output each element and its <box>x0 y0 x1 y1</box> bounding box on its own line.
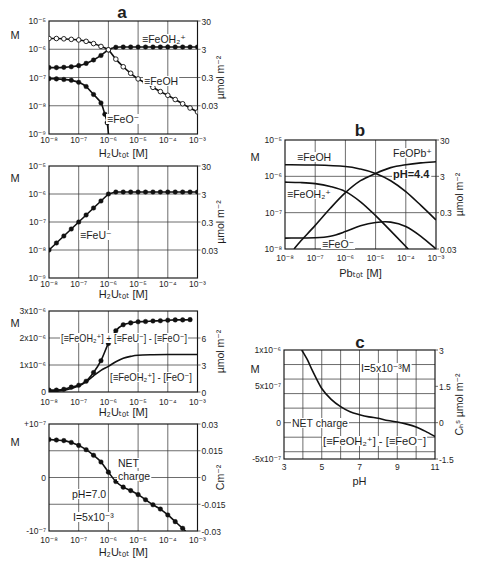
x-axis-title: H₂Uₜₒₜ [M] <box>99 288 148 300</box>
y-tick-label-right: 30 <box>440 136 450 146</box>
y-tick-label-right: 0 <box>202 473 207 483</box>
x-tick-label: 10⁻⁶ <box>100 535 117 545</box>
annotations: ≡FeOHFeOPb⁺pH=4.4≡FeOH₂⁺≡FeO⁻ <box>286 147 433 250</box>
data-point-open <box>114 57 119 62</box>
data-point-filled <box>158 507 163 512</box>
y-axis-title: M <box>10 436 19 448</box>
annotation-label: NET charge <box>292 417 348 429</box>
y-tick-label-right: -0.03 <box>202 527 222 537</box>
panel-title: b <box>355 121 365 140</box>
data-point-filled <box>114 190 119 195</box>
annotation-label: ≡FeO⁻ <box>322 238 354 250</box>
y-tick-label: 10⁻⁹ <box>28 129 46 139</box>
x-tick-label: 9 <box>395 462 400 472</box>
data-point-open <box>84 39 89 44</box>
y-tick-label-right: 0.03 <box>202 420 219 430</box>
y-tick-label-right: -1.5 <box>439 455 454 465</box>
data-point-open <box>121 64 126 69</box>
x-tick-label: 10⁻³ <box>189 397 206 407</box>
data-point-filled <box>91 206 96 211</box>
panel-title: c <box>355 333 364 352</box>
x-tick-label: 10⁻⁷ <box>70 279 87 289</box>
y-tick-label-right: 0.3 <box>202 73 214 83</box>
annotation-label: pH=4.4 <box>393 168 430 180</box>
panel-c: 357911-5x10⁻⁷05x10⁻⁷1x10⁻⁶-1.501.53pHMCₕ… <box>250 333 465 487</box>
data-point-filled <box>91 58 96 63</box>
x-tick-label: 3 <box>282 462 287 472</box>
annotation-label: [≡FeOH₂⁺] - [FeO⁻] <box>110 371 192 383</box>
data-point-open <box>54 36 59 41</box>
data-point-filled <box>76 220 81 225</box>
x-tick-label: 10⁻⁵ <box>367 253 384 263</box>
data-point-filled <box>143 497 148 502</box>
data-point-open <box>173 97 178 102</box>
y-tick-label-right: 0.3 <box>202 218 214 228</box>
data-point-filled <box>151 319 156 324</box>
y-tick-label-right: 0 <box>439 418 444 428</box>
data-point-filled <box>121 485 126 490</box>
y-tick-label-right: 3 <box>202 45 207 55</box>
x-tick-label: 10⁻⁴ <box>159 279 177 289</box>
x-axis-title: Pbₜₒₜ [M] <box>339 267 381 279</box>
data-point-filled <box>84 61 89 66</box>
y-axis-title: M <box>250 151 259 163</box>
data-point-filled <box>62 77 67 82</box>
y-tick-label-right: 0.3 <box>440 208 452 218</box>
data-point-filled <box>62 65 67 70</box>
y-tick-label: 10⁻⁵ <box>29 16 46 26</box>
data-point-filled <box>69 78 74 83</box>
annotation-label: I=5x10⁻³M <box>361 362 411 374</box>
annotation-label: [≡FeOH₂⁺] + [≡FeU⁻] - [≡FeO⁻] <box>61 332 187 344</box>
data-point-open <box>180 101 185 106</box>
data-point-filled <box>91 92 96 97</box>
data-point-filled <box>136 492 141 497</box>
y-tick-label: 10⁻⁸ <box>28 101 46 111</box>
series <box>285 222 436 249</box>
annotation-label: ≡FeOH <box>144 75 178 87</box>
data-point-filled <box>106 192 111 197</box>
data-point-filled <box>69 440 74 445</box>
data-point-open <box>158 89 163 94</box>
data-point-filled <box>195 45 200 50</box>
annotations: ≡FeU⁻ <box>79 229 113 241</box>
data-point-filled <box>173 519 178 524</box>
y-tick-label-right: -0.015 <box>202 500 226 510</box>
x-tick-label: 10⁻³ <box>428 253 445 263</box>
x-tick-label: 10⁻⁶ <box>337 253 354 263</box>
data-point-open <box>166 93 171 98</box>
y-axis-title-right: Cm⁻² <box>214 464 226 490</box>
annotations: NETchargepH=7.0I=5x10⁻³ <box>71 457 151 523</box>
y-axis-title: M <box>10 317 19 329</box>
data-point-filled <box>158 45 163 50</box>
data-point-filled <box>188 317 193 322</box>
series-line <box>49 192 198 250</box>
y-tick-label: 10⁻⁶ <box>265 171 282 181</box>
y-tick-label-right: 3 <box>202 361 207 371</box>
x-tick-label: 10⁻³ <box>189 135 206 145</box>
figure-canvas: 10⁻⁸10⁻⁷10⁻⁶10⁻⁵10⁻⁴10⁻³10⁻⁹10⁻⁸10⁻⁷10⁻⁶… <box>0 0 477 564</box>
x-axis-title: H₂Uₜₒₜ [M] <box>99 546 148 558</box>
y-tick-label: 10⁻⁷ <box>29 217 46 227</box>
data-point-filled <box>180 318 185 323</box>
x-tick-label: 10⁻⁷ <box>70 535 87 545</box>
y-tick-label: 10⁻⁹ <box>28 273 46 283</box>
data-point-open <box>91 41 96 46</box>
y-axis-title: M <box>10 29 19 41</box>
data-point-filled <box>62 234 67 239</box>
data-point-filled <box>128 488 133 493</box>
x-tick-label: 10⁻⁴ <box>159 135 177 145</box>
data-point-filled <box>136 45 141 50</box>
y-tick-label: 10⁻⁵ <box>265 135 282 145</box>
x-axis-title: H₂Uₜₒₜ [M] <box>99 147 148 159</box>
data-point-filled <box>151 190 156 195</box>
data-point-filled <box>99 460 104 465</box>
x-tick-label: 10⁻⁸ <box>40 535 58 545</box>
panel-a1: 10⁻⁸10⁻⁷10⁻⁶10⁻⁵10⁻⁴10⁻³10⁻⁹10⁻⁸10⁻⁷10⁻⁶… <box>10 3 226 159</box>
y-axis-title-right: µmol m⁻² <box>453 172 465 216</box>
y-tick-label: 10⁻⁷ <box>29 73 46 83</box>
panel-a4: 10⁻⁸10⁻⁷10⁻⁶10⁻⁵10⁻⁴10⁻³-10⁻⁷0+10⁻⁷-0.03… <box>10 419 226 558</box>
y-tick-label-right: 0.015 <box>202 446 224 456</box>
data-point-filled <box>47 437 52 442</box>
data-point-filled <box>173 45 178 50</box>
y-tick-label: 2x10⁻⁶ <box>20 333 46 343</box>
